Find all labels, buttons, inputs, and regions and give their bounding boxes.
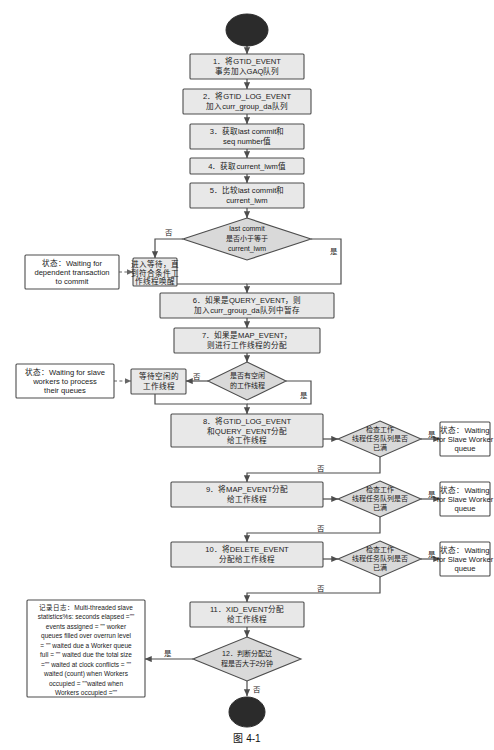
decq3-line2: 线程任务队列是否 — [352, 554, 408, 563]
step3-line2: seq number值 — [223, 136, 271, 146]
step6-line1: 6．如果是QUERY_EVENT，则 — [193, 295, 302, 305]
state-slave-line2: workers to process — [32, 377, 97, 386]
node-log-note: 记录日志：Multi-threaded slave statistics%s: … — [27, 600, 145, 697]
label-yes-lastcommit: 是 — [330, 247, 338, 256]
node-step8: 8．将GTID_LOG_EVENT 和QUERY_EVENT分配 给工作线程 — [171, 414, 323, 447]
log-line2: statistics%s: seconds elapsed ="" — [38, 613, 135, 621]
node-decision-queue-full-2: 检查工作 线程任务队列是否 已满 — [338, 481, 421, 517]
node-step9: 9．将MAP_EVENT分配 给工作线程 — [171, 482, 323, 507]
step2-line1: 2．将GTID_LOG_EVENT — [203, 91, 292, 101]
edge-decq3-no-step11 — [247, 577, 380, 602]
decq1-line3: 已满 — [373, 443, 387, 452]
step10-line2: 分配给工作线程 — [219, 554, 275, 564]
figure-caption: 图 4-1 — [233, 733, 261, 744]
log-line4: queues filled over overrun level — [41, 632, 132, 640]
node-state-slave-workers: 状态：Waiting for slave workers to process … — [16, 364, 114, 398]
node-step4: 4．获取current_lwm值 — [190, 158, 304, 174]
stateq3-line1: 状态：Waiting — [440, 545, 489, 555]
edge-decq2-no-step10 — [247, 517, 380, 542]
stateq2-line3: queue — [454, 504, 475, 513]
start-terminal — [226, 14, 268, 46]
node-decision-timeout: 12．判断分配过 程是否大于2分钟 — [193, 637, 301, 681]
label-no-q1: 否 — [317, 464, 325, 473]
waitdep-line2: 到符合条件工 — [131, 268, 179, 278]
state-dep-line3: to commit — [56, 277, 90, 286]
log-line3: events assigned = "" worker — [46, 623, 127, 631]
stateq1-line2: for Slave Worker — [437, 435, 494, 444]
step4-line1: 4．获取current_lwm值 — [208, 161, 286, 171]
decq3-line3: 已满 — [373, 563, 387, 572]
stateq3-line2: for Slave Worker — [437, 555, 494, 564]
decq2-line3: 已满 — [373, 503, 387, 512]
node-decision-queue-full-3: 检查工作 线程任务队列是否 已满 — [338, 541, 421, 577]
node-step7: 7．如果是MAP_EVENT， 则进行工作线程的分配 — [174, 328, 320, 353]
stateq2-line1: 状态：Waiting — [440, 485, 489, 495]
log-line5: = "" waited due a Worker queue — [40, 642, 132, 650]
state-slave-line1: 状态：Waiting for slave — [25, 367, 105, 377]
step8-line1: 8．将GTID_LOG_EVENT — [203, 416, 292, 426]
node-state-worker-queue-2: 状态：Waiting for Slave Worker queue — [437, 482, 494, 516]
waitdep-line3: 作线程唤醒 — [135, 276, 175, 286]
node-step10: 10．将DELETE_EVENT 分配给工作线程 — [171, 542, 323, 567]
label-yes-idle: 是 — [300, 391, 308, 400]
dec-idle-line1: 是否有空闲 — [230, 371, 265, 380]
flowchart-canvas: 1．将GTID_EVENT 事务加入GAQ队列 2．将GTID_LOG_EVEN… — [0, 0, 494, 750]
step1-line2: 事务加入GAQ队列 — [215, 66, 280, 76]
node-step5: 5．比较last commit和 current_lwm — [190, 183, 304, 208]
label-no-q3: 否 — [317, 584, 325, 593]
decq1-line2: 线程任务队列是否 — [352, 434, 408, 443]
node-step3: 3．获取last commit和 seq number值 — [190, 124, 304, 149]
label-yes-q1: 是 — [428, 430, 436, 439]
label-no-idle: 否 — [193, 372, 201, 381]
step5-line1: 5．比较last commit和 — [210, 185, 285, 195]
node-decision-queue-full-1: 检查工作 线程任务队列是否 已满 — [338, 421, 421, 457]
node-decision-lastcommit: last commit 是否小于等于 current_lwm — [183, 218, 311, 260]
step6-line2: 加入curr_group_da队列中暂存 — [194, 305, 299, 315]
dec-lastcommit-line1: last commit — [229, 225, 264, 232]
stateq1-line1: 状态：Waiting — [440, 425, 489, 435]
node-step2: 2．将GTID_LOG_EVENT 加入curr_group_da队列 — [183, 89, 311, 114]
dec-lastcommit-line2: 是否小于等于 — [226, 234, 268, 243]
node-step6: 6．如果是QUERY_EVENT，则 加入curr_group_da队列中暂存 — [160, 293, 334, 318]
node-decision-idle-worker: 是否有空闲 的工作线程 — [208, 362, 286, 400]
node-state-dep-commit: 状态：Waiting for dependent transaction to … — [25, 255, 119, 289]
log-line10: Workers occupied ="" — [55, 689, 118, 697]
state-dep-line2: dependent transaction — [34, 268, 109, 277]
step8-line2: 和QUERY_EVENT分配 — [207, 427, 287, 436]
log-line9: occupied = ""waited when — [49, 680, 124, 688]
step3-line1: 3．获取last commit和 — [210, 126, 285, 136]
state-slave-line3: their queues — [44, 386, 86, 395]
node-state-worker-queue-1: 状态：Waiting for Slave Worker queue — [437, 422, 494, 456]
label-no-q2: 否 — [317, 524, 325, 533]
decq3-line1: 检查工作 — [366, 545, 394, 554]
step11-line1: 11．XID_EVENT分配 — [210, 605, 284, 614]
edge-waitidle-join-step8 — [155, 394, 247, 414]
state-dep-line1: 状态：Waiting for — [42, 258, 102, 268]
end-terminal — [229, 697, 265, 727]
node-wait-idle-worker: 等待空闲的 工作线程 — [131, 369, 186, 394]
node-wait-dependent: 进入等待，直 到符合条件工 作线程唤醒 — [131, 258, 179, 286]
step8-line3: 给工作线程 — [227, 435, 267, 445]
step5-line2: current_lwm — [226, 196, 267, 205]
dectimeout-line1: 12．判断分配过 — [222, 649, 272, 658]
step7-line1: 7．如果是MAP_EVENT， — [202, 330, 292, 340]
step7-line2: 则进行工作线程的分配 — [207, 340, 287, 350]
log-line1: 记录日志：Multi-threaded slave — [39, 603, 133, 612]
step2-line2: 加入curr_group_da队列 — [206, 101, 287, 111]
log-line6: full = "" waited due the total size — [40, 651, 132, 658]
step11-line2: 给工作线程 — [227, 614, 267, 624]
step10-line1: 10．将DELETE_EVENT — [205, 544, 289, 554]
edge-decq1-no-step9 — [247, 457, 380, 482]
node-step1: 1．将GTID_EVENT 事务加入GAQ队列 — [190, 54, 304, 79]
waitidle-line1: 等待空闲的 — [139, 371, 179, 381]
log-line7: ="" waited at clock conflicts = "" — [41, 661, 132, 668]
waitidle-line2: 工作线程 — [143, 381, 175, 391]
node-state-worker-queue-3: 状态：Waiting for Slave Worker queue — [437, 542, 494, 576]
stateq3-line3: queue — [454, 564, 475, 573]
label-yes-q3: 是 — [428, 550, 436, 559]
label-no-timeout: 否 — [253, 685, 261, 694]
dec-lastcommit-line3: current_lwm — [228, 245, 266, 253]
step9-line1: 9．将MAP_EVENT分配 — [206, 484, 288, 494]
waitdep-line1: 进入等待，直 — [131, 259, 179, 269]
dec-idle-line2: 的工作线程 — [230, 381, 265, 390]
